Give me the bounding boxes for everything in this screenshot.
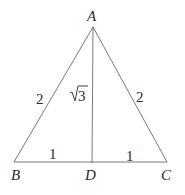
length-label-ad-radicand: 3	[78, 88, 86, 104]
segment-ad-altitude	[92, 27, 93, 163]
length-label-bd: 1	[49, 146, 57, 162]
length-label-ad: 3	[70, 86, 88, 104]
length-label-ac: 2	[136, 89, 144, 105]
length-label-dc: 1	[126, 148, 134, 164]
vertex-label-c: C	[161, 167, 172, 183]
vertex-label-b: B	[11, 167, 20, 183]
vertex-label-a: A	[86, 8, 97, 24]
vertex-label-d: D	[84, 167, 96, 183]
triangle-diagram: A B D C 2 2 1 1 3	[0, 0, 185, 195]
length-label-ab: 2	[36, 91, 44, 107]
segment-ac	[93, 27, 167, 162]
